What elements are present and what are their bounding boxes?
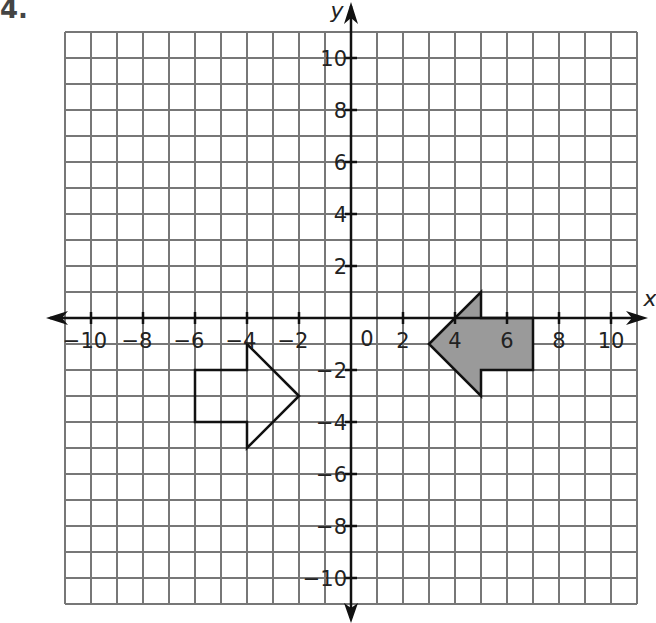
- x-tick-label: 10: [598, 329, 625, 353]
- x-tick-label: 2: [396, 329, 409, 353]
- y-tick-label: 4: [334, 203, 347, 227]
- y-tick-label: 8: [334, 99, 347, 123]
- y-tick-label: 10: [320, 47, 347, 71]
- y-tick-label: −4: [316, 411, 347, 435]
- y-tick-label: 6: [334, 151, 347, 175]
- y-tick-label: −2: [316, 359, 347, 383]
- x-tick-label: 8: [552, 329, 565, 353]
- axes: [46, 2, 648, 623]
- x-tick-label: 4: [448, 329, 461, 353]
- origin-label: 0: [360, 327, 373, 351]
- shaded-left-arrow: [429, 292, 533, 396]
- x-tick-label: −6: [174, 329, 205, 353]
- x-tick-label: −4: [226, 329, 257, 353]
- y-axis-label: y: [329, 0, 344, 23]
- y-tick-label: −6: [316, 463, 347, 487]
- x-tick-label: −2: [278, 329, 309, 353]
- x-tick-label: 6: [500, 329, 513, 353]
- x-tick-label: −10: [63, 329, 107, 353]
- coordinate-plane: −10−8−6−4−2246810108642−2−4−6−8−100xy: [0, 0, 656, 623]
- tick-labels: −10−8−6−4−2246810108642−2−4−6−8−100xy: [63, 0, 656, 591]
- x-tick-label: −8: [122, 329, 153, 353]
- y-tick-label: 2: [334, 255, 347, 279]
- x-axis-label: x: [642, 286, 656, 311]
- y-tick-label: −8: [316, 515, 347, 539]
- y-tick-label: −10: [303, 567, 347, 591]
